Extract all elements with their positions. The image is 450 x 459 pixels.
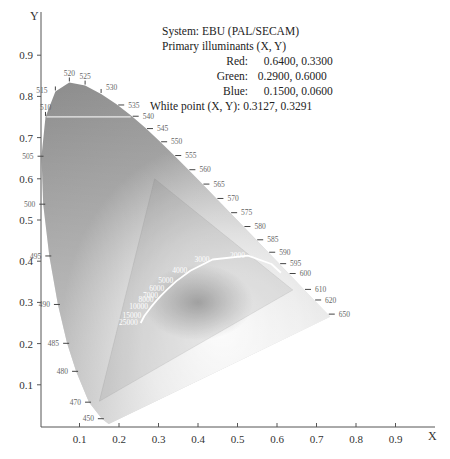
x-axis-label: X (428, 429, 437, 443)
red-value: 0.6400, 0.3300 (264, 55, 333, 67)
wavelength-label: 560 (199, 165, 211, 174)
wavelength-label: 515 (36, 86, 48, 95)
y-tick-label: 0.7 (19, 132, 33, 144)
blue-value: 0.1500, 0.0600 (264, 85, 333, 97)
wavelength-label: 570 (227, 194, 239, 203)
y-tick-label: 0.8 (19, 90, 33, 102)
y-axis-label: Y (30, 9, 39, 23)
wavelength-label: 520 (64, 69, 76, 78)
system-info-panel: System: EBU (PAL/SECAM) Primary illumina… (162, 24, 333, 114)
wavelength-label: 575 (241, 208, 253, 217)
y-tick-label: 0.1 (19, 379, 33, 391)
system-line: System: EBU (PAL/SECAM) (162, 24, 333, 39)
wavelength-label: 545 (157, 124, 169, 133)
x-tick-label: 0.5 (231, 433, 245, 445)
temperature-label: 15000 (123, 311, 142, 320)
wavelength-label: 600 (300, 269, 312, 278)
green-row: Green: 0.2900, 0.6000 (162, 69, 333, 84)
y-tick-label: 0.2 (19, 338, 33, 350)
y-tick-label: 0.6 (19, 173, 33, 185)
temperature-label: 2000 (230, 251, 245, 260)
primaries-heading: Primary illuminants (X, Y) (162, 39, 333, 54)
wavelength-label: 450 (83, 414, 95, 423)
wavelength-label: 590 (279, 248, 291, 257)
wavelength-label: 580 (254, 222, 266, 231)
x-tick-label: 0.9 (389, 433, 403, 445)
wavelength-label: 470 (70, 398, 82, 407)
red-label: Red: (204, 54, 248, 69)
wavelength-label: 480 (57, 367, 69, 376)
wavelength-label: 550 (171, 137, 183, 146)
x-tick-label: 0.4 (191, 433, 205, 445)
x-tick-label: 0.1 (73, 433, 87, 445)
y-tick-label: 0.9 (19, 49, 33, 61)
wavelength-label: 530 (106, 83, 118, 92)
y-tick-label: 0.5 (19, 214, 33, 226)
green-label: Green: (204, 69, 248, 84)
green-value: 0.2900, 0.6000 (258, 70, 327, 82)
red-row: Red: 0.6400, 0.3300 (162, 54, 333, 69)
temperature-label: 5000 (158, 276, 173, 285)
wavelength-label: 610 (315, 285, 327, 294)
wavelength-label: 585 (267, 235, 279, 244)
wavelength-label: 525 (79, 72, 91, 81)
wavelength-label: 485 (48, 339, 60, 348)
wavelength-label: 535 (128, 101, 140, 110)
x-tick-label: 0.8 (349, 433, 363, 445)
temperature-label: 6000 (149, 284, 164, 293)
temperature-label: 3000 (195, 255, 210, 264)
x-tick-label: 0.6 (270, 433, 284, 445)
wavelength-label: 650 (339, 310, 351, 319)
wavelength-label: 500 (24, 200, 36, 209)
wavelength-label: 595 (290, 259, 302, 268)
white-point-line: White point (X, Y): 0.3127, 0.3291 (150, 99, 333, 114)
temperature-label: 4000 (172, 266, 187, 275)
y-tick-label: 0.4 (19, 255, 33, 267)
x-tick-label: 0.7 (310, 433, 324, 445)
wavelength-label: 490 (39, 300, 51, 309)
wavelength-label: 510 (40, 103, 52, 112)
y-tick-label: 0.3 (19, 296, 33, 308)
wavelength-label: 620 (325, 296, 337, 305)
x-tick-label: 0.3 (152, 433, 166, 445)
x-tick-label: 0.2 (112, 433, 126, 445)
wavelength-label: 565 (213, 180, 225, 189)
blue-row: Blue: 0.1500, 0.0600 (162, 84, 333, 99)
blue-label: Blue: (204, 84, 248, 99)
wavelength-label: 505 (22, 152, 34, 161)
wavelength-label: 555 (185, 151, 197, 160)
